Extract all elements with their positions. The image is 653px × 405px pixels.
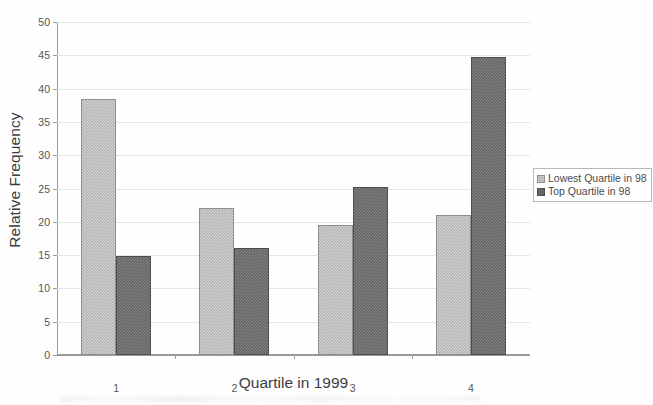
light-gray-checkered-swatch bbox=[537, 175, 545, 183]
legend-label: Lowest Quartile in 98 bbox=[548, 173, 647, 184]
scan-artifact bbox=[60, 396, 480, 402]
legend-label: Top Quartile in 98 bbox=[548, 186, 630, 197]
x-tick-mark bbox=[175, 355, 176, 359]
y-tick-mark bbox=[53, 255, 57, 256]
x-tick-mark bbox=[294, 355, 295, 359]
y-tick-label: 30 bbox=[38, 149, 50, 161]
legend-entry: Top Quartile in 98 bbox=[537, 185, 647, 198]
y-tick-label: 40 bbox=[38, 83, 50, 95]
y-tick-label: 45 bbox=[38, 49, 50, 61]
x-axis-title: Quartile in 1999 bbox=[57, 374, 530, 392]
y-tick-mark bbox=[53, 189, 57, 190]
bar bbox=[436, 215, 471, 355]
bar-chart: Relative Frequency 05101520253035404550 … bbox=[0, 0, 653, 405]
y-tick-mark bbox=[53, 55, 57, 56]
y-tick-label: 15 bbox=[38, 249, 50, 261]
y-tick-label: 25 bbox=[38, 183, 50, 195]
y-tick-label: 35 bbox=[38, 116, 50, 128]
bar bbox=[318, 225, 353, 355]
dark-gray-swatch bbox=[537, 188, 545, 196]
bar bbox=[471, 57, 506, 355]
y-tick-mark bbox=[53, 322, 57, 323]
y-tick-mark bbox=[53, 122, 57, 123]
bar bbox=[199, 208, 234, 355]
plot-area: 05101520253035404550 1234 bbox=[57, 22, 530, 355]
gridline bbox=[57, 122, 530, 123]
gridline bbox=[57, 189, 530, 190]
gridline bbox=[57, 55, 530, 56]
x-tick-mark bbox=[412, 355, 413, 359]
gridline bbox=[57, 22, 530, 23]
bar bbox=[234, 248, 269, 355]
x-axis-title-label: Quartile in 1999 bbox=[239, 374, 348, 391]
y-tick-mark bbox=[53, 222, 57, 223]
y-tick-mark bbox=[53, 89, 57, 90]
y-tick-label: 0 bbox=[44, 349, 50, 361]
y-tick-mark bbox=[53, 22, 57, 23]
y-tick-label: 50 bbox=[38, 16, 50, 28]
y-tick-mark bbox=[53, 288, 57, 289]
chart-legend: Lowest Quartile in 98Top Quartile in 98 bbox=[533, 168, 652, 202]
y-tick-label: 5 bbox=[44, 316, 50, 328]
y-tick-mark bbox=[53, 355, 57, 356]
y-tick-label: 10 bbox=[38, 282, 50, 294]
y-axis-title: Relative Frequency bbox=[2, 0, 28, 360]
bar bbox=[81, 99, 116, 355]
bar bbox=[116, 256, 151, 355]
legend-entry: Lowest Quartile in 98 bbox=[537, 172, 647, 185]
bar bbox=[353, 187, 388, 355]
y-tick-label: 20 bbox=[38, 216, 50, 228]
gridline bbox=[57, 155, 530, 156]
gridline bbox=[57, 89, 530, 90]
y-axis-title-label: Relative Frequency bbox=[6, 112, 24, 247]
y-tick-mark bbox=[53, 155, 57, 156]
